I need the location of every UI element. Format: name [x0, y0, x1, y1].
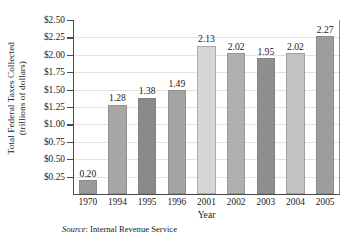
x-axis-tick-label: 1996	[162, 197, 192, 208]
y-axis-tick-label: $1.50	[25, 85, 65, 95]
bar-value-label: 2.02	[287, 42, 304, 52]
bar-value-label: 1.95	[257, 47, 274, 57]
bar[interactable]	[257, 58, 275, 194]
x-axis-tick-label: 1994	[103, 197, 133, 208]
bar-slot: 1.38	[138, 20, 156, 194]
bar-slot: 2.13	[197, 20, 215, 194]
bar-value-label: 0.20	[79, 169, 96, 179]
bar[interactable]	[316, 36, 334, 194]
source-label: Source	[62, 224, 86, 234]
y-axis-tick-label: $2.50	[25, 15, 65, 25]
x-axis-tick-label: 2001	[192, 197, 222, 208]
x-axis-title: Year	[73, 209, 340, 220]
bar[interactable]	[138, 98, 156, 194]
y-axis-title: Total Federal Taxes Collected (trillions…	[0, 0, 34, 196]
x-axis-tick-label: 1970	[73, 197, 103, 208]
bar-series: 0.201.281.381.492.132.021.952.022.27	[73, 20, 340, 194]
bar-slot: 1.95	[257, 20, 275, 194]
bar[interactable]	[227, 53, 245, 194]
bar-value-label: 1.38	[139, 86, 156, 96]
bar-slot: 1.49	[168, 20, 186, 194]
x-axis-tick-label: 2002	[221, 197, 251, 208]
bar-value-label: 2.27	[317, 25, 334, 35]
bar-slot: 2.02	[286, 20, 304, 194]
bar-value-label: 1.28	[109, 93, 126, 103]
x-axis-tick-label: 1995	[132, 197, 162, 208]
y-axis-tick-label: $0.50	[25, 154, 65, 164]
bar-slot: 1.28	[108, 20, 126, 194]
source-note: Source: Internal Revenue Service	[62, 224, 177, 234]
bar-slot: 2.02	[227, 20, 245, 194]
y-axis-tick-label: $1.25	[25, 102, 65, 112]
source-text: Internal Revenue Service	[90, 224, 177, 234]
bar[interactable]	[197, 46, 215, 194]
bar-value-label: 2.02	[228, 42, 245, 52]
y-axis-tick-label: $2.25	[25, 32, 65, 42]
y-axis-tick-label: $2.00	[25, 50, 65, 60]
x-axis-tick-label: 2005	[310, 197, 340, 208]
y-axis-tick-label: $1.75	[25, 67, 65, 77]
bar[interactable]	[286, 53, 304, 194]
bar-chart-figure: Total Federal Taxes Collected (trillions…	[0, 0, 352, 241]
y-axis-tick-label: $0.75	[25, 137, 65, 147]
bar-value-label: 2.13	[198, 34, 215, 44]
x-axis-tick-label: 2003	[251, 197, 281, 208]
y-axis-tick-label: $0.25	[25, 172, 65, 182]
y-axis-tick-label: $1.00	[25, 119, 65, 129]
bar[interactable]	[79, 180, 97, 194]
bar[interactable]	[108, 105, 126, 194]
y-axis-title-line1: Total Federal Taxes Collected	[6, 42, 16, 154]
bar-slot: 0.20	[79, 20, 97, 194]
bar-value-label: 1.49	[168, 79, 185, 89]
bar-slot: 2.27	[316, 20, 334, 194]
x-axis-tick-label: 2004	[281, 197, 311, 208]
bar[interactable]	[168, 90, 186, 194]
